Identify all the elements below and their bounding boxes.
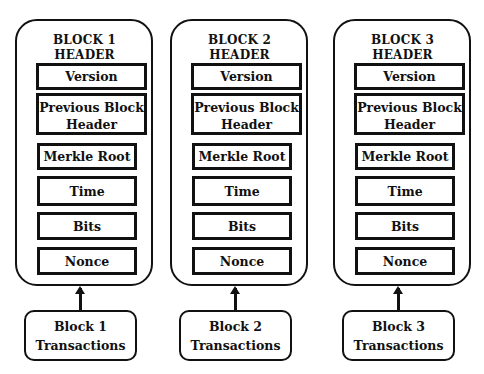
time-field: Time bbox=[37, 176, 137, 206]
bits-field: Bits bbox=[192, 212, 292, 240]
arrow-up-icon bbox=[79, 288, 82, 310]
block-3: BLOCK 3 HEADER Version Previous Block He… bbox=[333, 0, 483, 374]
transactions-label-line2: Transactions bbox=[36, 336, 126, 355]
block-header-title-line1: BLOCK 2 bbox=[170, 33, 309, 48]
block-header-title-line2: HEADER bbox=[333, 48, 472, 63]
transactions-box: Block 3 Transactions bbox=[342, 310, 455, 361]
time-field: Time bbox=[355, 176, 455, 206]
merkle-root-field: Merkle Root bbox=[192, 143, 292, 170]
block-2: BLOCK 2 HEADER Version Previous Block He… bbox=[170, 0, 320, 374]
block-header-title: BLOCK 2 HEADER bbox=[170, 33, 309, 63]
transactions-box: Block 2 Transactions bbox=[179, 310, 292, 361]
block-header-title-line1: BLOCK 1 bbox=[15, 33, 154, 48]
nonce-field: Nonce bbox=[37, 247, 137, 275]
version-field: Version bbox=[36, 63, 147, 90]
transactions-label-line1: Block 2 bbox=[209, 317, 262, 336]
version-field: Version bbox=[191, 63, 302, 90]
merkle-root-field: Merkle Root bbox=[37, 143, 137, 170]
bits-field: Bits bbox=[37, 212, 137, 240]
block-header-title-line2: HEADER bbox=[15, 48, 154, 63]
block-header-title: BLOCK 3 HEADER bbox=[333, 33, 472, 63]
transactions-box: Block 1 Transactions bbox=[24, 310, 137, 361]
previous-block-header-field: Previous Block Header bbox=[36, 93, 147, 135]
nonce-field: Nonce bbox=[355, 247, 455, 275]
transactions-label-line1: Block 1 bbox=[54, 317, 107, 336]
previous-block-header-field: Previous Block Header bbox=[191, 93, 302, 135]
previous-block-header-field: Previous Block Header bbox=[354, 93, 465, 135]
transactions-label-line2: Transactions bbox=[191, 336, 281, 355]
block-header-title: BLOCK 1 HEADER bbox=[15, 33, 154, 63]
transactions-label-line1: Block 3 bbox=[372, 317, 425, 336]
merkle-root-field: Merkle Root bbox=[355, 143, 455, 170]
bits-field: Bits bbox=[355, 212, 455, 240]
block-1: BLOCK 1 HEADER Version Previous Block He… bbox=[15, 0, 165, 374]
nonce-field: Nonce bbox=[192, 247, 292, 275]
arrow-up-icon bbox=[234, 288, 237, 310]
transactions-label-line2: Transactions bbox=[354, 336, 444, 355]
block-header-title-line1: BLOCK 3 bbox=[333, 33, 472, 48]
version-field: Version bbox=[354, 63, 465, 90]
time-field: Time bbox=[192, 176, 292, 206]
block-header-title-line2: HEADER bbox=[170, 48, 309, 63]
arrow-up-icon bbox=[397, 288, 400, 310]
